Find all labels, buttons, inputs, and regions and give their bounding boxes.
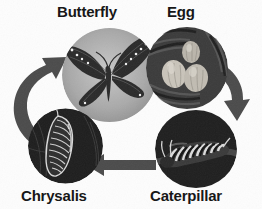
stage-label-butterfly: Butterfly: [57, 4, 117, 19]
chrysalis-photo: [28, 108, 103, 184]
stage-label-chrysalis: Chrysalis: [21, 188, 87, 203]
stage-label-egg: Egg: [167, 4, 195, 19]
caterpillar-photo: [155, 110, 237, 188]
butterfly-life-cycle-diagram: Butterfly Egg Caterpillar Chrysalis: [0, 0, 262, 209]
egg-photo: [146, 26, 228, 110]
butterfly-photo: [62, 28, 157, 122]
stage-label-caterpillar: Caterpillar: [150, 188, 222, 203]
